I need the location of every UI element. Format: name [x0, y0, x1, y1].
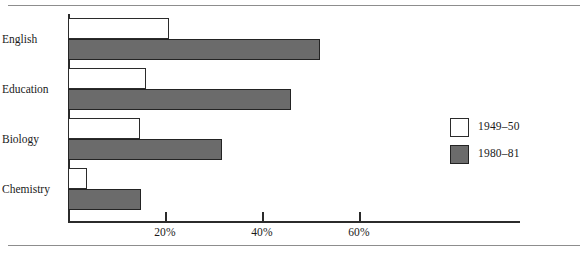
category-label-education: Education [2, 83, 64, 95]
legend-label: 1980–81 [478, 147, 520, 159]
bar-1980-81-chemistry [68, 189, 141, 210]
bar-1949-50-english [68, 18, 169, 39]
x-tick-label: 40% [232, 226, 292, 238]
x-tick-mark [262, 212, 264, 221]
bar-chart-figure: EnglishEducationBiologyChemistry 20%40%6… [0, 0, 588, 256]
category-axis-labels: EnglishEducationBiologyChemistry [4, 14, 64, 222]
x-axis-line [68, 221, 520, 223]
bar-1980-81-english [68, 39, 320, 60]
category-label-english: English [2, 33, 64, 45]
legend-item: 1949–50 [450, 118, 580, 141]
legend-item: 1980–81 [450, 145, 580, 168]
x-tick-label: 60% [329, 226, 389, 238]
bar-1980-81-biology [68, 139, 222, 160]
legend-label: 1949–50 [478, 120, 520, 132]
x-tick-mark [165, 212, 167, 221]
top-divider-rule [8, 5, 580, 6]
plot-area: 20%40%60% [68, 14, 468, 222]
chart-legend: 1949–501980–81 [450, 118, 580, 172]
bar-1980-81-education [68, 89, 291, 110]
bar-1949-50-chemistry [68, 168, 87, 189]
bar-1949-50-education [68, 68, 146, 89]
category-label-chemistry: Chemistry [2, 183, 64, 195]
bottom-divider-rule [8, 245, 580, 246]
x-tick-label: 20% [135, 226, 195, 238]
legend-swatch-dark [450, 145, 469, 164]
bar-1949-50-biology [68, 118, 140, 139]
category-label-biology: Biology [2, 133, 64, 145]
x-tick-mark [359, 212, 361, 221]
legend-swatch-light [450, 118, 469, 137]
